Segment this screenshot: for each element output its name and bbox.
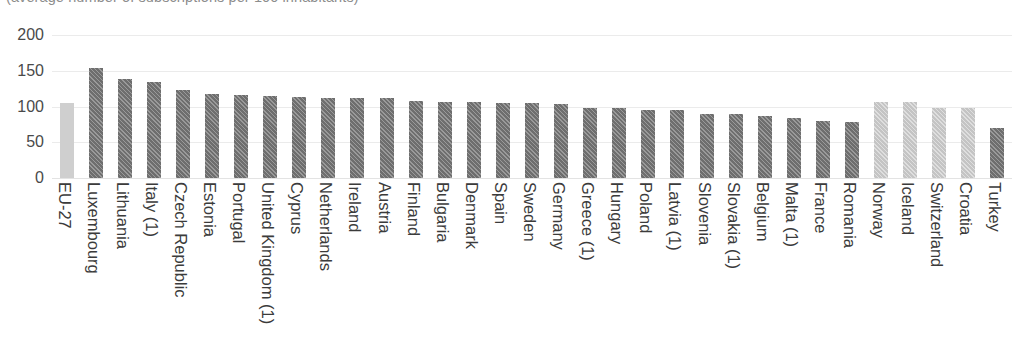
x-axis-label-slovenia: Slovenia xyxy=(696,182,713,245)
x-axis-labels: EU-27LuxembourgLithuaniaItaly (1)Czech R… xyxy=(52,182,1012,341)
bar-slovenia[interactable] xyxy=(700,114,714,178)
x-axis-label-lithuania: Lithuania xyxy=(114,182,131,249)
bar-croatia[interactable] xyxy=(961,108,975,178)
bar-portugal[interactable] xyxy=(234,95,248,178)
x-axis-label-portugal: Portugal xyxy=(231,182,248,243)
x-axis-label-romania: Romania xyxy=(842,182,859,248)
x-axis-label-sweden: Sweden xyxy=(522,182,539,242)
bar-belgium[interactable] xyxy=(758,116,772,178)
x-axis-label-luxembourg: Luxembourg xyxy=(85,182,102,274)
x-axis-label-turkey: Turkey xyxy=(987,182,1004,232)
x-axis-label-bulgaria: Bulgaria xyxy=(434,182,451,243)
x-axis-label-france: France xyxy=(812,182,829,233)
bar-malta-1[interactable] xyxy=(787,118,801,178)
bar-ireland[interactable] xyxy=(350,98,364,178)
y-axis-tick-200: 200 xyxy=(17,26,44,44)
x-axis-label-germany: Germany xyxy=(551,182,568,250)
bar-france[interactable] xyxy=(816,121,830,178)
x-axis-label-estonia: Estonia xyxy=(202,182,219,237)
bar-greece-1[interactable] xyxy=(583,108,597,178)
bar-italy-1[interactable] xyxy=(147,82,161,178)
y-axis-tick-100: 100 xyxy=(17,98,44,116)
x-axis-label-hungary: Hungary xyxy=(609,182,626,244)
bar-romania[interactable] xyxy=(845,122,859,178)
x-axis-label-ireland: Ireland xyxy=(347,182,364,232)
bars-container xyxy=(52,35,1012,178)
bar-eu-27[interactable] xyxy=(60,103,74,178)
x-axis-label-croatia: Croatia xyxy=(958,182,975,235)
x-axis-label-norway: Norway xyxy=(871,182,888,238)
x-axis-label-belgium: Belgium xyxy=(754,182,771,242)
bar-sweden[interactable] xyxy=(525,103,539,178)
bar-czech-republic[interactable] xyxy=(176,90,190,178)
x-axis-label-poland: Poland xyxy=(638,182,655,233)
x-axis-label-netherlands: Netherlands xyxy=(318,182,335,271)
x-axis-label-austria: Austria xyxy=(376,182,393,233)
gridline-0 xyxy=(52,178,1012,179)
bar-united-kingdom-1[interactable] xyxy=(263,96,277,178)
bar-norway[interactable] xyxy=(874,102,888,179)
bar-lithuania[interactable] xyxy=(118,79,132,178)
bar-turkey[interactable] xyxy=(990,128,1004,178)
bar-latvia-1[interactable] xyxy=(670,110,684,178)
bar-slovakia-1[interactable] xyxy=(729,114,743,178)
bar-cyprus[interactable] xyxy=(292,97,306,178)
bar-germany[interactable] xyxy=(554,104,568,178)
x-axis-label-switzerland: Switzerland xyxy=(929,182,946,267)
x-axis-label-slovakia-1: Slovakia (1) xyxy=(725,182,742,269)
bar-switzerland[interactable] xyxy=(932,108,946,178)
x-axis-label-latvia-1: Latvia (1) xyxy=(667,182,684,251)
x-axis-label-finland: Finland xyxy=(405,182,422,236)
x-axis-label-czech-republic: Czech Republic xyxy=(172,182,189,298)
x-axis-label-united-kingdom-1: United Kingdom (1) xyxy=(260,182,277,324)
x-axis-label-eu-27: EU-27 xyxy=(56,182,73,229)
y-axis-tick-0: 0 xyxy=(35,169,44,187)
bar-luxembourg[interactable] xyxy=(89,68,103,178)
x-axis-label-denmark: Denmark xyxy=(463,182,480,249)
x-axis-label-malta-1: Malta (1) xyxy=(783,182,800,247)
y-axis: 050100150200 xyxy=(0,35,44,178)
bar-austria[interactable] xyxy=(380,98,394,178)
bar-denmark[interactable] xyxy=(467,102,481,178)
x-axis-label-greece-1: Greece (1) xyxy=(580,182,597,261)
y-axis-tick-50: 50 xyxy=(26,133,44,151)
bar-chart: (average number of subscriptions per 100… xyxy=(0,0,1019,341)
x-axis-label-italy-1: Italy (1) xyxy=(143,182,160,237)
y-axis-tick-150: 150 xyxy=(17,62,44,80)
bar-spain[interactable] xyxy=(496,103,510,178)
bar-estonia[interactable] xyxy=(205,94,219,178)
x-axis-label-iceland: Iceland xyxy=(900,182,917,235)
bar-hungary[interactable] xyxy=(612,108,626,178)
x-axis-label-spain: Spain xyxy=(492,182,509,224)
bar-netherlands[interactable] xyxy=(321,98,335,178)
bar-bulgaria[interactable] xyxy=(438,102,452,179)
bar-finland[interactable] xyxy=(409,101,423,178)
bar-iceland[interactable] xyxy=(903,102,917,179)
chart-subtitle: (average number of subscriptions per 100… xyxy=(6,0,359,5)
bar-poland[interactable] xyxy=(641,110,655,178)
x-axis-label-cyprus: Cyprus xyxy=(289,182,306,234)
